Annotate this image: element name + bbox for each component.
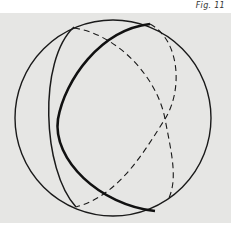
great-circle-near-thin (49, 27, 76, 207)
great-circle-far-dashed-1 (74, 28, 173, 200)
great-circle-far-dashed-2 (76, 24, 176, 207)
great-circle-near-thick (57, 24, 155, 211)
sphere-diagram (0, 0, 231, 227)
